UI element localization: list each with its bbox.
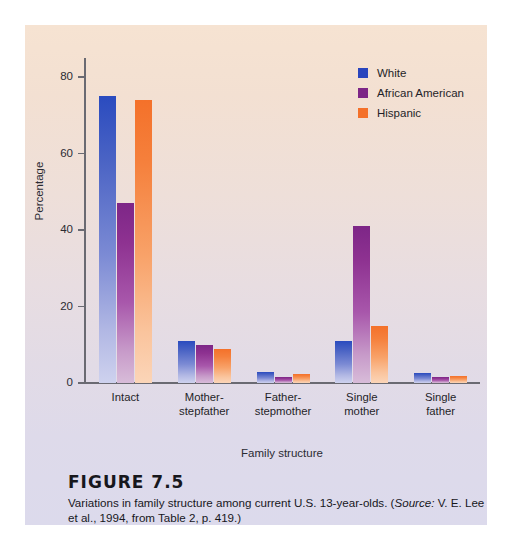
legend-item-label: Hispanic (377, 107, 421, 119)
x-category-label-line: father (393, 405, 489, 419)
x-axis-category-labels: IntactMother-stepfatherFather-stepmother… (86, 391, 480, 441)
legend-item: African American (358, 85, 464, 100)
bar (371, 326, 388, 383)
bar (275, 377, 292, 383)
figure-caption-block: FIGURE 7.5 Variations in family structur… (50, 472, 510, 525)
bar (214, 349, 231, 383)
bar (432, 377, 449, 383)
y-tick-mark (78, 153, 85, 154)
x-axis-title: Family structure (84, 447, 480, 459)
bar (99, 96, 116, 383)
caption-part-1: Variations in family structure among cur… (68, 496, 394, 509)
bar (414, 373, 431, 383)
bar (196, 345, 213, 383)
legend-swatch-icon (358, 108, 368, 118)
y-tick-label: 80 (25, 71, 73, 83)
bar-group (178, 58, 231, 383)
y-axis-title: Percentage (33, 131, 45, 251)
figure-caption-text: Variations in family structure among cur… (68, 496, 494, 525)
figure-container: 020406080 Percentage Family structure In… (0, 0, 510, 550)
y-tick-mark (78, 229, 85, 230)
chart-plot-area: 020406080 Percentage Family structure In… (25, 25, 487, 525)
y-tick-label: 20 (25, 301, 73, 313)
bar (117, 203, 134, 383)
caption-source-word: Source: (394, 496, 434, 509)
bar (257, 372, 274, 383)
bar-group (257, 58, 310, 383)
y-tick-label: 0 (25, 377, 73, 389)
bar (335, 341, 352, 383)
chart-legend: WhiteAfrican AmericanHispanic (358, 65, 464, 125)
figure-page-panel: 020406080 Percentage Family structure In… (25, 25, 487, 525)
bar (135, 100, 152, 383)
bar (450, 376, 467, 383)
y-tick-mark (78, 76, 85, 77)
bar (178, 341, 195, 383)
legend-item: White (358, 65, 464, 80)
figure-number: FIGURE 7.5 (68, 472, 494, 492)
y-tick-mark (78, 306, 85, 307)
bar (353, 226, 370, 383)
bar-group (99, 58, 152, 383)
legend-item: Hispanic (358, 105, 464, 120)
y-tick-mark (78, 382, 85, 383)
legend-item-label: White (377, 67, 406, 79)
legend-swatch-icon (358, 88, 368, 98)
legend-item-label: African American (377, 87, 464, 99)
x-category-label-line: Single (393, 391, 489, 405)
x-category-label: Singlefather (393, 391, 489, 418)
bar (293, 374, 310, 383)
legend-swatch-icon (358, 68, 368, 78)
